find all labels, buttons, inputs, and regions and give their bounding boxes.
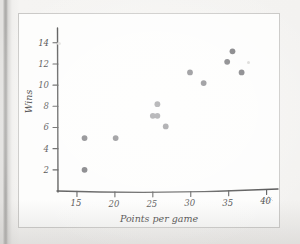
data-point (201, 80, 207, 86)
x-tick-label: 30 (184, 198, 195, 208)
y-axis-ticks: 2468101214 (38, 38, 58, 175)
x-tick-label: 40 (259, 196, 271, 206)
data-point (154, 113, 160, 119)
data-points-group (82, 48, 245, 172)
y-tick-label: 2 (43, 165, 49, 175)
data-point (187, 70, 193, 76)
x-axis-title: Points per game (119, 213, 199, 224)
y-tick-label: 12 (38, 59, 49, 69)
y-axis-line (58, 28, 59, 192)
y-tick-label: 8 (44, 101, 50, 111)
scatter-chart: 152025303540 2468101214 Points per game … (19, 14, 281, 229)
y-axis-title: Wins (23, 90, 34, 114)
data-point (239, 70, 245, 76)
y-tick-label: 4 (43, 144, 49, 154)
figure-frame: 152025303540 2468101214 Points per game … (18, 13, 280, 228)
data-point (113, 135, 119, 141)
x-tick-label: 20 (107, 199, 119, 209)
axes-group (57, 28, 278, 192)
data-point (82, 135, 88, 141)
x-tick-label: 25 (145, 199, 157, 209)
y-tick-label: 14 (38, 38, 49, 48)
data-point (154, 101, 160, 107)
plot-area: 152025303540 2468101214 Points per game … (19, 14, 281, 229)
y-tick-label: 6 (44, 122, 50, 132)
x-axis-line (57, 189, 278, 192)
data-point (82, 167, 88, 173)
data-point (224, 59, 230, 65)
data-point (230, 48, 236, 54)
x-tick-label: 35 (222, 198, 233, 208)
data-point (163, 124, 169, 130)
y-tick-label: 10 (38, 80, 49, 90)
x-tick-label: 15 (71, 198, 82, 208)
